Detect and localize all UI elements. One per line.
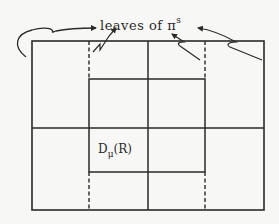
curved-arrow-right bbox=[198, 28, 262, 60]
inner-square-region bbox=[89, 79, 205, 172]
region-label-subscript: μ bbox=[108, 149, 114, 159]
diagram-canvas bbox=[0, 0, 279, 224]
region-label-symbol: D bbox=[98, 142, 108, 156]
region-label: Dμ(R) bbox=[98, 142, 132, 156]
region-label-argument: (R) bbox=[113, 142, 131, 156]
leaves-annotation-superscript: s bbox=[176, 15, 181, 25]
arrow-to-pi-center bbox=[172, 34, 200, 60]
curved-arrow-left bbox=[17, 28, 96, 57]
leaves-annotation: leaves of πs bbox=[100, 18, 181, 33]
leaves-annotation-text: leaves of π bbox=[100, 18, 176, 33]
